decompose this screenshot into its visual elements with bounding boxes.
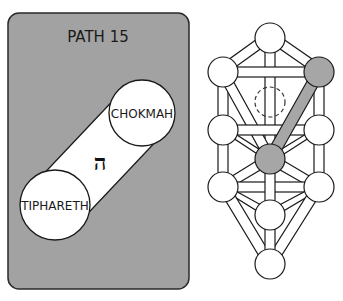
- netzach-node: [304, 172, 334, 202]
- tiphareth-node-highlighted: [255, 144, 285, 174]
- yesod-node: [255, 200, 285, 230]
- kether-node: [255, 23, 285, 53]
- card-title: PATH 15: [67, 28, 128, 46]
- geburah-node: [208, 115, 238, 145]
- chesed-node: [304, 115, 334, 145]
- path-15-diagram: PATH 15 CHOKMAH TIPHARETH ה: [0, 0, 343, 301]
- chokmah-label: CHOKMAH: [111, 107, 173, 121]
- binah-node: [208, 57, 238, 87]
- hod-node: [208, 172, 238, 202]
- path-card: PATH 15 CHOKMAH TIPHARETH ה: [8, 13, 189, 289]
- tree-of-life: [208, 23, 334, 279]
- chokmah-node-highlighted: [304, 57, 334, 87]
- malkuth-node: [255, 249, 285, 279]
- hebrew-letter-he: ה: [94, 149, 107, 175]
- tiphareth-label: TIPHARETH: [20, 199, 89, 213]
